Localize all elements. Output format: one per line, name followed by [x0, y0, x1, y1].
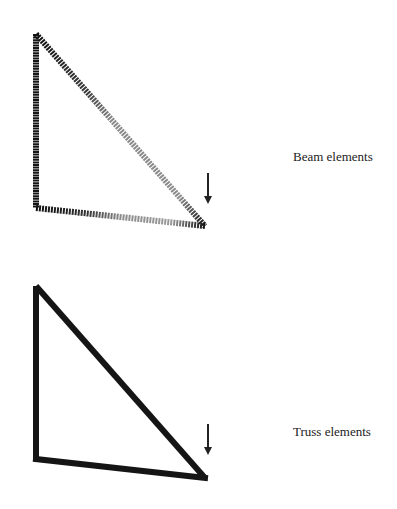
beam-elements-diagram: [36, 34, 208, 226]
beam-elements-label: Beam elements: [293, 149, 373, 165]
beam-bottom-member: [36, 208, 205, 226]
truss-hypotenuse-member: [36, 286, 205, 478]
truss-elements-diagram: [36, 286, 208, 478]
truss-elements-label: Truss elements: [293, 424, 371, 440]
beam-hypotenuse-member: [36, 34, 205, 226]
truss-bottom-member: [36, 459, 205, 478]
